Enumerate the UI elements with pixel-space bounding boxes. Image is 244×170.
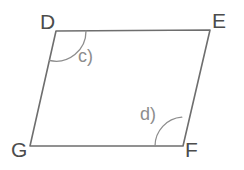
vertex-label-e: E [212, 10, 226, 31]
parallelogram-svg [0, 0, 244, 170]
vertex-label-d: D [40, 11, 55, 32]
angle-arc-d [155, 117, 182, 146]
angle-label-d: d) [140, 105, 156, 123]
vertex-label-f: F [185, 139, 198, 160]
angle-label-c: c) [78, 47, 93, 65]
parallelogram-outline [30, 30, 210, 146]
vertex-label-g: G [11, 139, 27, 160]
geometry-figure: D E F G c) d) [0, 0, 244, 170]
